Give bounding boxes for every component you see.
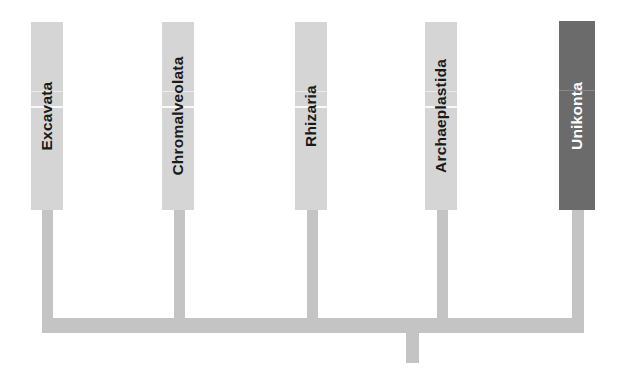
taxon-box-excavata: Excavata [31, 22, 63, 210]
taxon-box-unikonta: Unikonta [559, 21, 595, 210]
phylogenetic-tree-diagram: Excavata Chromalveolata Rhizaria Archaep… [0, 0, 617, 370]
branch-stem-excavata [42, 210, 53, 333]
branch-stem-rhizaria [307, 210, 318, 322]
branch-stem-unikonta [572, 210, 584, 333]
taxon-box-rhizaria: Rhizaria [295, 22, 327, 210]
taxon-label: Excavata [38, 82, 56, 151]
root-stem [406, 333, 419, 363]
taxon-label: Rhizaria [302, 85, 320, 147]
taxon-box-chromalveolata: Chromalveolata [162, 22, 194, 210]
branch-horizontal-connector [42, 318, 584, 333]
taxon-box-archaeplastida: Archaeplastida [425, 22, 457, 210]
taxon-label: Archaeplastida [432, 59, 450, 173]
taxon-label: Unikonta [568, 82, 586, 150]
branch-stem-archaeplastida [437, 210, 448, 322]
taxon-label: Chromalveolata [169, 56, 187, 175]
branch-stem-chromalveolata [174, 210, 185, 322]
